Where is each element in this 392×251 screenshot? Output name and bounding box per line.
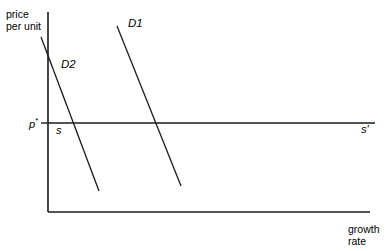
demand-curve-d1 bbox=[117, 26, 181, 186]
p-star-asterisk: * bbox=[35, 116, 38, 125]
x-axis-label-line1: growth bbox=[348, 223, 380, 235]
y-axis-label-line1: price bbox=[6, 8, 29, 20]
economics-diagram: priceper unit growthrate p* s s' D2 D1 bbox=[0, 0, 392, 251]
supply-label-right: s' bbox=[361, 123, 369, 135]
y-axis-label-line2: per unit bbox=[6, 20, 41, 32]
x-axis-label: growthrate bbox=[348, 224, 380, 248]
demand-d2-label: D2 bbox=[61, 58, 76, 71]
y-axis-label: priceper unit bbox=[6, 9, 41, 33]
demand-d1-label: D1 bbox=[128, 17, 143, 30]
p-star-label: p* bbox=[29, 117, 38, 130]
supply-label-left: s bbox=[56, 124, 62, 136]
x-axis-label-line2: rate bbox=[348, 235, 366, 247]
